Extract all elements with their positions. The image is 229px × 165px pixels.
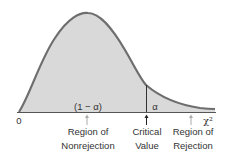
nonrejection-annotation: Region of Nonrejection [57,126,119,151]
nonrejection-annotation-line2: Nonrejection [57,140,119,151]
nonrejection-annotation-line1: Region of [57,126,119,137]
rejection-annotation-line2: Rejection [170,140,216,151]
nonrejection-area-label: (1 − α) [68,101,108,112]
rejection-annotation: Region of Rejection [170,126,216,151]
axis-label: χ² [201,115,215,126]
critical-value-annotation-line1: Critical [128,126,166,137]
rejection-area-label: α [150,101,160,112]
arrow-rejection-icon [189,115,193,126]
area-under-curve [19,13,215,112]
critical-value-annotation: Critical Value [128,126,166,151]
critical-value-annotation-line2: Value [128,140,166,151]
arrow-nonrejection-icon [85,115,89,126]
arrow-critical-value-icon [145,115,149,126]
rejection-annotation-line1: Region of [170,126,216,137]
origin-label: 0 [15,115,23,126]
